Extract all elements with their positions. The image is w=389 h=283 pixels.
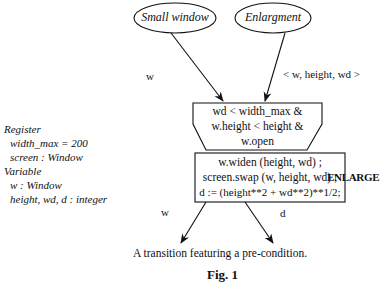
action-box: w.widen (height, wd) ; screen.swap (w, h… <box>195 155 345 200</box>
input-arc-tuple <box>265 33 285 101</box>
action-line: screen.swap (w, height, wd) ; <box>195 170 345 185</box>
precondition-line: w.open <box>193 134 322 149</box>
precondition-line: w.height < height & <box>193 119 322 134</box>
output-arc-d <box>245 202 273 243</box>
precondition-line: wd < width_max & <box>193 104 322 119</box>
variable-item: w : Window <box>4 178 107 192</box>
variable-item: height, wd, d : integer <box>4 192 107 206</box>
register-heading: Register <box>4 122 107 136</box>
figure-label: Fig. 1 <box>207 267 238 283</box>
transition-name: ENLARGE <box>327 171 379 183</box>
output-arc-w-label: w <box>161 206 169 218</box>
precondition-guard: wd < width_max & w.height < height & w.o… <box>193 104 322 149</box>
input-arc-w <box>171 33 223 101</box>
declarations: Register width_max = 200 screen : Window… <box>4 122 107 206</box>
place-enlargment-label: Enlargment <box>236 10 310 25</box>
register-item: screen : Window <box>4 150 107 164</box>
action-line: d := (height**2 + wd**2)**1/2; <box>195 185 345 200</box>
output-arc-w <box>181 202 206 243</box>
action-line: w.widen (height, wd) ; <box>195 155 345 170</box>
place-small-window-label: Small window <box>138 10 212 25</box>
input-arc-w-label: w <box>146 70 154 82</box>
variable-heading: Variable <box>4 164 107 178</box>
output-arc-d-label: d <box>280 207 286 219</box>
figure-caption: A transition featuring a pre-condition. <box>133 247 307 259</box>
input-arc-tuple-label: < w, height, wd > <box>283 68 360 80</box>
register-item: width_max = 200 <box>4 136 107 150</box>
